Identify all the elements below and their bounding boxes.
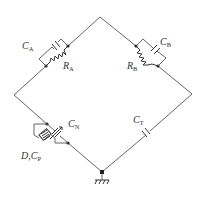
- label-ct: CT: [133, 114, 144, 126]
- bridge-circuit-diagram: CA RA CB RB: [0, 0, 201, 197]
- test-specimen-dcp-icon: [39, 129, 51, 141]
- capacitor-ct-icon: [142, 128, 150, 137]
- branch-top-right: CB RB: [100, 17, 192, 94]
- label-ca: CA: [22, 40, 34, 52]
- branch-bottom-left: CN D,CP: [14, 95, 102, 172]
- branch-top-left: CA RA: [14, 17, 100, 95]
- branch-bottom-right: CT: [102, 94, 192, 172]
- label-cn: CN: [68, 118, 80, 130]
- variable-capacitor-cn-icon: [50, 127, 62, 139]
- label-rb: RB: [126, 60, 138, 72]
- label-cb: CB: [160, 36, 172, 48]
- label-ra: RA: [62, 60, 74, 72]
- resistor-rb-icon: [136, 46, 158, 66]
- label-dcp: D,CP: [20, 150, 41, 162]
- ground-icon: [95, 170, 109, 184]
